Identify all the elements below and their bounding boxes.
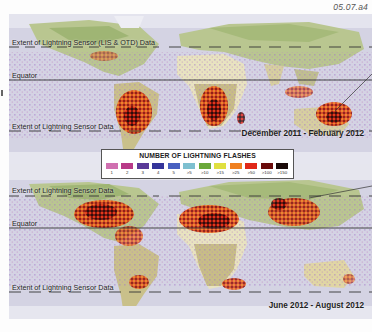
map-jun-aug: Extent of Lightning Sensor Data Equator … <box>9 164 372 319</box>
legend-swatch <box>276 163 288 169</box>
legend-swatch <box>245 163 257 169</box>
legend-item: 5 <box>167 163 181 175</box>
legend-item: 1 <box>105 163 119 175</box>
legend-value: >25 <box>232 170 239 175</box>
legend-item: >25 <box>229 163 243 175</box>
legend-item: 2 <box>121 163 135 175</box>
south-extent-label: Extent of Lightning Sensor Data <box>12 283 114 292</box>
map-dec-feb: Extent of Lightning Sensor (LIS & OTD) D… <box>9 14 372 164</box>
flash-count-legend: NUMBER OF LIGHTNING FLASHES 1 2 3 4 5 >5… <box>101 149 294 179</box>
legend-value: >50 <box>248 170 255 175</box>
legend-swatches: 1 2 3 4 5 >5 >10 >15 >25 >50 >100 >150 <box>105 163 289 175</box>
equator-label: Equator <box>12 71 37 80</box>
legend-swatch <box>152 163 164 169</box>
legend-item: >10 <box>198 163 212 175</box>
legend-swatch <box>137 163 149 169</box>
legend-value: 3 <box>142 170 144 175</box>
legend-swatch <box>106 163 118 169</box>
legend-value: >15 <box>217 170 224 175</box>
margin-tick <box>1 90 3 96</box>
equator-label: Equator <box>12 219 37 228</box>
legend-value: >100 <box>262 170 272 175</box>
legend-swatch <box>261 163 273 169</box>
season-title: June 2012 - August 2012 <box>269 301 364 310</box>
legend-value: 4 <box>157 170 159 175</box>
legend-swatch <box>199 163 211 169</box>
legend-value: 5 <box>173 170 175 175</box>
legend-value: 2 <box>126 170 128 175</box>
legend-swatch <box>214 163 226 169</box>
legend-value: >10 <box>201 170 208 175</box>
north-extent-label: Extent of Lightning Sensor Data <box>12 186 114 195</box>
legend-value: 1 <box>111 170 113 175</box>
world-map-dec-feb <box>9 14 372 164</box>
legend-item: >50 <box>245 163 259 175</box>
legend-value: >5 <box>187 170 192 175</box>
legend-item: 3 <box>136 163 150 175</box>
legend-value: >150 <box>277 170 287 175</box>
legend-swatch <box>168 163 180 169</box>
north-extent-label: Extent of Lightning Sensor (LIS & OTD) D… <box>12 38 155 47</box>
legend-item: >5 <box>183 163 197 175</box>
legend-item: >100 <box>260 163 274 175</box>
legend-swatch <box>230 163 242 169</box>
legend-item: 4 <box>152 163 166 175</box>
season-title: December 2011 - February 2012 <box>242 129 364 138</box>
legend-swatch <box>121 163 133 169</box>
legend-swatch <box>183 163 195 169</box>
legend-item: >150 <box>276 163 290 175</box>
legend-title: NUMBER OF LIGHTNING FLASHES <box>102 152 293 159</box>
south-extent-label: Extent of Lightning Sensor Data <box>12 122 114 131</box>
figure-id: 05.07.a4 <box>333 2 368 12</box>
legend-item: >15 <box>214 163 228 175</box>
